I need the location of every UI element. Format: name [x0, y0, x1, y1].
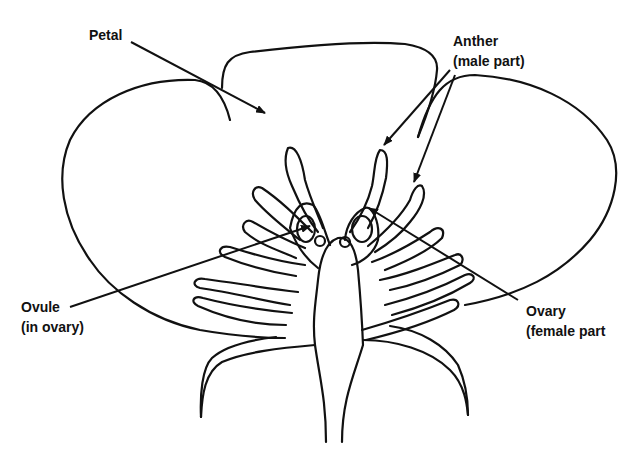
ovule-label-line1: Ovule — [21, 297, 84, 317]
ovary-label-line2: (female part — [526, 321, 605, 341]
stem — [342, 345, 363, 442]
stem — [315, 345, 326, 442]
left-stamen — [253, 187, 312, 240]
right-sepal — [390, 326, 468, 415]
right-stamen — [362, 300, 458, 340]
pistil — [314, 238, 363, 345]
right-ovule — [352, 216, 372, 242]
back-petal — [222, 43, 437, 137]
ovule-label-line2: (in ovary) — [21, 317, 84, 337]
left-stamen — [193, 297, 292, 325]
anther-label: Anther (male part) — [453, 31, 525, 71]
anther-label-line2: (male part) — [453, 51, 525, 71]
left-sepal — [201, 345, 315, 417]
ovule-label: Ovule (in ovary) — [21, 297, 84, 337]
flower-diagram: Petal Anther (male part) Ovule (in ovary… — [0, 0, 640, 464]
anther-pointer-1 — [384, 70, 450, 145]
right-stamen — [380, 254, 462, 290]
petal-label: Petal — [89, 25, 122, 45]
left-ovule-small — [315, 236, 325, 246]
right-sepal — [363, 340, 468, 415]
ovule-pointer — [70, 226, 310, 307]
ovary-label: Ovary (female part — [526, 301, 605, 341]
left-sepal — [201, 337, 276, 417]
anther-label-line1: Anther — [453, 31, 525, 51]
left-stamen — [195, 279, 298, 305]
petal-label-line1: Petal — [89, 25, 122, 45]
flower-illustration — [0, 0, 640, 464]
ovary-label-line1: Ovary — [526, 301, 605, 321]
